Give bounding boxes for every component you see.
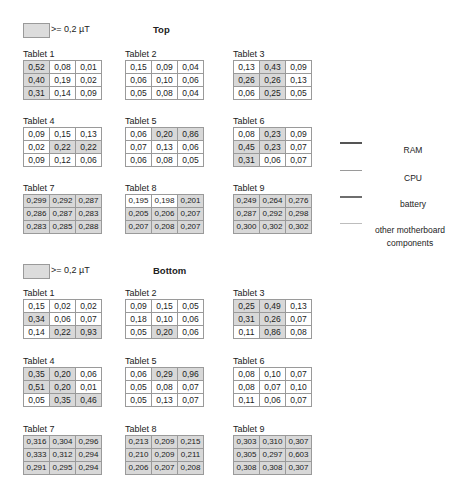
grid-cell: 0,31 <box>234 154 260 167</box>
grid-cell: 0,29 <box>152 368 178 381</box>
tablet-8-top: Tablet 80,1950,1980,2010,2050,2060,2070,… <box>125 183 204 234</box>
grid-cell: 0,07 <box>178 381 204 394</box>
grid-cell: 0,09 <box>286 61 312 74</box>
grid-cell: 0,288 <box>76 221 102 234</box>
tablet-grid: 0,2490,2640,2760,2870,2920,2980,3000,302… <box>233 194 312 234</box>
tablet-grid: 0,150,090,040,060,100,060,050,080,04 <box>125 60 204 100</box>
grid-cell: 0,15 <box>152 300 178 313</box>
grid-cell: 0,304 <box>50 436 76 449</box>
tablet-2-top: Tablet 20,150,090,040,060,100,060,050,08… <box>125 49 204 100</box>
grid-cell: 0,10 <box>152 313 178 326</box>
grid-cell: 0,209 <box>152 449 178 462</box>
grid-cell: 0,15 <box>126 61 152 74</box>
grid-cell: 0,11 <box>234 326 260 339</box>
grid-row: 0,3080,3080,307 <box>234 462 312 475</box>
grid-row: 0,050,080,07 <box>126 381 204 394</box>
grid-cell: 0,211 <box>178 449 204 462</box>
grid-cell: 0,10 <box>152 74 178 87</box>
grid-cell: 0,285 <box>50 221 76 234</box>
grid-row: 0,070,130,06 <box>126 141 204 154</box>
tablet-grid: 0,520,080,010,400,190,020,310,140,09 <box>23 60 102 100</box>
grid-cell: 0,208 <box>152 221 178 234</box>
grid-cell: 0,31 <box>24 87 50 100</box>
tablet-label: Tablet 7 <box>23 183 102 193</box>
grid-cell: 0,205 <box>126 208 152 221</box>
tablet-grid: 0,2990,2920,2870,2860,2870,2830,2830,285… <box>23 194 102 234</box>
tablet-label: Tablet 1 <box>23 288 102 298</box>
grid-cell: 0,86 <box>178 128 204 141</box>
grid-cell: 0,35 <box>24 368 50 381</box>
tablet-grid: 0,080,230,090,450,230,070,310,060,07 <box>233 127 312 167</box>
grid-row: 0,060,080,05 <box>126 154 204 167</box>
grid-cell: 0,02 <box>24 141 50 154</box>
grid-row: 0,090,120,06 <box>24 154 102 167</box>
tablet-grid: 0,060,290,960,050,080,070,050,130,07 <box>125 367 204 407</box>
grid-cell: 0,06 <box>126 128 152 141</box>
grid-cell: 0,13 <box>286 74 312 87</box>
grid-cell: 0,52 <box>24 61 50 74</box>
grid-cell: 0,45 <box>234 141 260 154</box>
grid-cell: 0,302 <box>286 221 312 234</box>
grid-row: 0,090,150,05 <box>126 300 204 313</box>
tablet-grid: 0,1950,1980,2010,2050,2060,2070,2070,208… <box>125 194 204 234</box>
grid-cell: 0,06 <box>178 141 204 154</box>
grid-cell: 0,307 <box>286 462 312 475</box>
grid-cell: 0,07 <box>178 394 204 407</box>
grid-cell: 0,31 <box>234 313 260 326</box>
grid-cell: 0,09 <box>24 128 50 141</box>
tablet-grid: 0,090,150,130,020,220,220,090,120,06 <box>23 127 102 167</box>
legend-label-other: other motherboard components <box>360 224 456 250</box>
grid-row: 0,050,350,46 <box>24 394 102 407</box>
grid-row: 0,2830,2850,288 <box>24 221 102 234</box>
tablet-grid: 0,3160,3040,2960,3330,3120,2940,2910,295… <box>23 435 102 475</box>
grid-cell: 0,316 <box>24 436 50 449</box>
grid-cell: 0,13 <box>152 141 178 154</box>
tablet-3-top: Tablet 30,130,430,090,260,260,130,060,25… <box>233 49 312 100</box>
grid-cell: 0,35 <box>50 394 76 407</box>
grid-cell: 0,213 <box>126 436 152 449</box>
grid-cell: 0,07 <box>126 141 152 154</box>
grid-cell: 0,07 <box>286 394 312 407</box>
grid-row: 0,2100,2090,211 <box>126 449 204 462</box>
grid-cell: 0,01 <box>76 381 102 394</box>
grid-cell: 0,06 <box>50 313 76 326</box>
grid-cell: 0,22 <box>50 326 76 339</box>
tablet-2-bottom: Tablet 20,090,150,050,180,100,060,050,20… <box>125 288 204 339</box>
grid-cell: 0,08 <box>152 381 178 394</box>
tablet-label: Tablet 9 <box>233 424 312 434</box>
grid-cell: 0,198 <box>152 195 178 208</box>
grid-cell: 0,195 <box>126 195 152 208</box>
legend-label-ram: RAM <box>368 145 456 155</box>
grid-row: 0,310,140,09 <box>24 87 102 100</box>
grid-cell: 0,207 <box>152 462 178 475</box>
grid-row: 0,2860,2870,283 <box>24 208 102 221</box>
grid-cell: 0,302 <box>260 221 286 234</box>
tablet-4-bottom: Tablet 40,350,200,060,510,200,010,050,35… <box>23 356 102 407</box>
tablet-grid: 0,2130,2090,2150,2100,2090,2110,2060,207… <box>125 435 204 475</box>
grid-row: 0,310,060,07 <box>234 154 312 167</box>
grid-row: 0,2130,2090,215 <box>126 436 204 449</box>
grid-row: 0,060,250,05 <box>234 87 312 100</box>
grid-cell: 0,02 <box>76 74 102 87</box>
grid-cell: 0,49 <box>260 300 286 313</box>
grid-cell: 0,09 <box>76 87 102 100</box>
grid-cell: 0,18 <box>126 313 152 326</box>
grid-cell: 0,13 <box>286 300 312 313</box>
grid-row: 0,3050,2970,603 <box>234 449 312 462</box>
grid-row: 0,060,200,86 <box>126 128 204 141</box>
grid-cell: 0,603 <box>286 449 312 462</box>
grid-row: 0,450,230,07 <box>234 141 312 154</box>
grid-cell: 0,294 <box>76 462 102 475</box>
grid-row: 0,2490,2640,276 <box>234 195 312 208</box>
tablet-label: Tablet 6 <box>233 356 312 366</box>
grid-row: 0,080,230,09 <box>234 128 312 141</box>
legend-line-other <box>340 223 362 224</box>
grid-cell: 0,305 <box>234 449 260 462</box>
tablet-grid: 0,350,200,060,510,200,010,050,350,46 <box>23 367 102 407</box>
grid-cell: 0,297 <box>260 449 286 462</box>
grid-cell: 0,292 <box>260 208 286 221</box>
grid-cell: 0,06 <box>126 368 152 381</box>
grid-cell: 0,34 <box>24 313 50 326</box>
grid-cell: 0,08 <box>152 87 178 100</box>
grid-row: 0,080,070,10 <box>234 381 312 394</box>
